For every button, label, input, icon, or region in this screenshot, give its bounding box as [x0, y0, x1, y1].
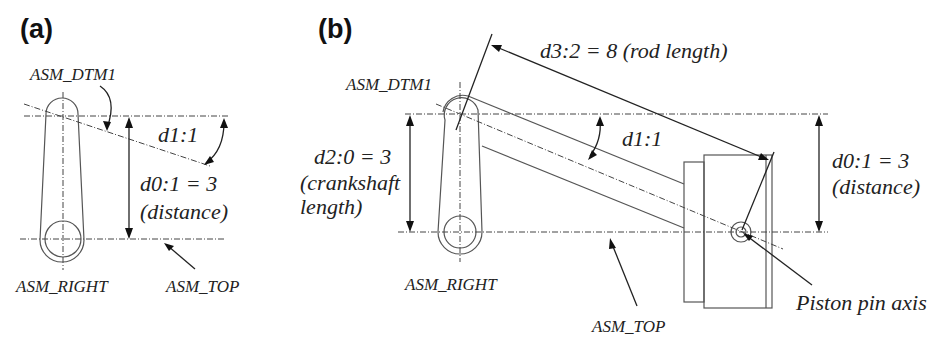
panel-b-title: (b) [318, 14, 352, 44]
crank-label-1: d2:0 = 3 [314, 144, 391, 169]
asm-top-leader-b [612, 244, 637, 306]
crank-link-a [40, 98, 84, 262]
asm-right-label-b: ASM_RIGHT [404, 275, 498, 294]
crank-mechanism-diagram: (a) ASM_DTM1 d0:1 = 3 (distance) d1:1 AS… [0, 0, 942, 352]
panel-a: (a) ASM_DTM1 d0:1 = 3 (distance) d1:1 AS… [15, 14, 239, 296]
angle-label-b: d1:1 [622, 126, 662, 151]
datum-dtm1-line-b [436, 104, 783, 249]
pin-axis-leader [747, 236, 812, 285]
distance-label-b-1: d0:1 = 3 [832, 148, 909, 173]
rod-extension-right [742, 152, 774, 230]
panel-a-title: (a) [20, 14, 53, 44]
distance-label-b-2: (distance) [832, 174, 920, 199]
rod-length-label: d3:2 = 8 (rod length) [540, 38, 728, 63]
asm-top-leader-a [168, 246, 195, 269]
asm-right-label-a: ASM_RIGHT [15, 277, 109, 296]
angle-arc-a [206, 122, 224, 163]
angle-label-a: d1:1 [158, 122, 198, 147]
panel-b-datum-label: ASM_DTM1 [345, 75, 432, 94]
panel-a-datum-label: ASM_DTM1 [29, 65, 116, 84]
crank-label-2: (crankshaft [300, 170, 401, 195]
panel-b: (b) ASM_DTM1 d2:0 = 3 ( [300, 14, 927, 336]
distance-label-a-1: d0:1 = 3 [140, 171, 217, 196]
asm-top-label-b: ASM_TOP [591, 317, 665, 336]
distance-label-a-2: (distance) [140, 199, 228, 224]
crank-label-3: length) [300, 194, 362, 219]
asm-top-label-a: ASM_TOP [165, 277, 239, 296]
piston-pin-axis-label: Piston pin axis [795, 290, 927, 315]
rod-extension-left [456, 34, 492, 130]
